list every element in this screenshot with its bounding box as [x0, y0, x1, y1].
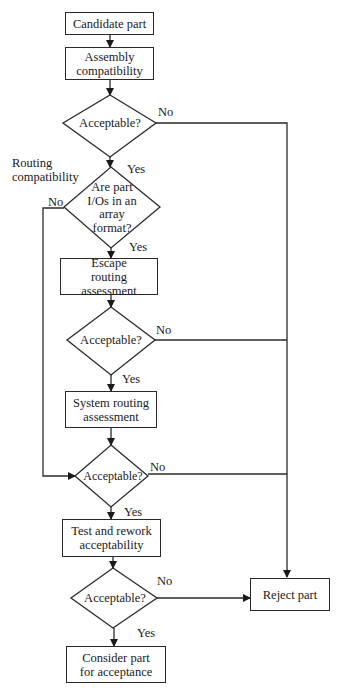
- decision-5-no-label: No: [157, 575, 172, 588]
- decision-1-no-label: No: [158, 106, 173, 119]
- decision-1-text: Acceptable?: [70, 116, 150, 131]
- routing-compatibility-label: Routing compatibility: [12, 156, 92, 184]
- decision-1-yes-label: Yes: [127, 163, 145, 176]
- decision-5-yes-label: Yes: [137, 627, 155, 640]
- decision-4-yes-label: Yes: [124, 506, 142, 519]
- system-routing-text: System routing assessment: [72, 396, 150, 424]
- consider-part-text: Consider part for acceptance: [77, 651, 155, 679]
- reject-part-box: Reject part: [250, 578, 330, 611]
- decision-3-no-label: No: [156, 324, 171, 337]
- consider-part-box: Consider part for acceptance: [66, 646, 166, 683]
- decision-2-text: Are part I/Os in an array format?: [82, 180, 142, 236]
- system-routing-box: System routing assessment: [65, 391, 157, 428]
- decision-4-text: Acceptable?: [78, 469, 148, 484]
- decision-2-no-label: No: [48, 196, 63, 209]
- decision-3-text: Acceptable?: [74, 333, 148, 348]
- decision-3-yes-label: Yes: [122, 373, 140, 386]
- escape-routing-box: Escape routing assessment: [60, 258, 158, 295]
- decision-2-yes-label: Yes: [129, 241, 147, 254]
- assembly-compatibility-box: Assembly compatibility: [65, 47, 154, 80]
- escape-routing-text: Escape routing assessment: [73, 256, 145, 298]
- test-rework-box: Test and rework acceptability: [62, 519, 161, 557]
- decision-4-no-label: No: [150, 461, 165, 474]
- test-rework-text: Test and rework acceptability: [71, 524, 152, 552]
- candidate-part-box: Candidate part: [65, 12, 154, 35]
- candidate-part-text: Candidate part: [73, 17, 146, 31]
- reject-part-text: Reject part: [263, 588, 318, 602]
- assembly-compatibility-text: Assembly compatibility: [76, 50, 143, 78]
- decision-5-text: Acceptable?: [78, 591, 152, 606]
